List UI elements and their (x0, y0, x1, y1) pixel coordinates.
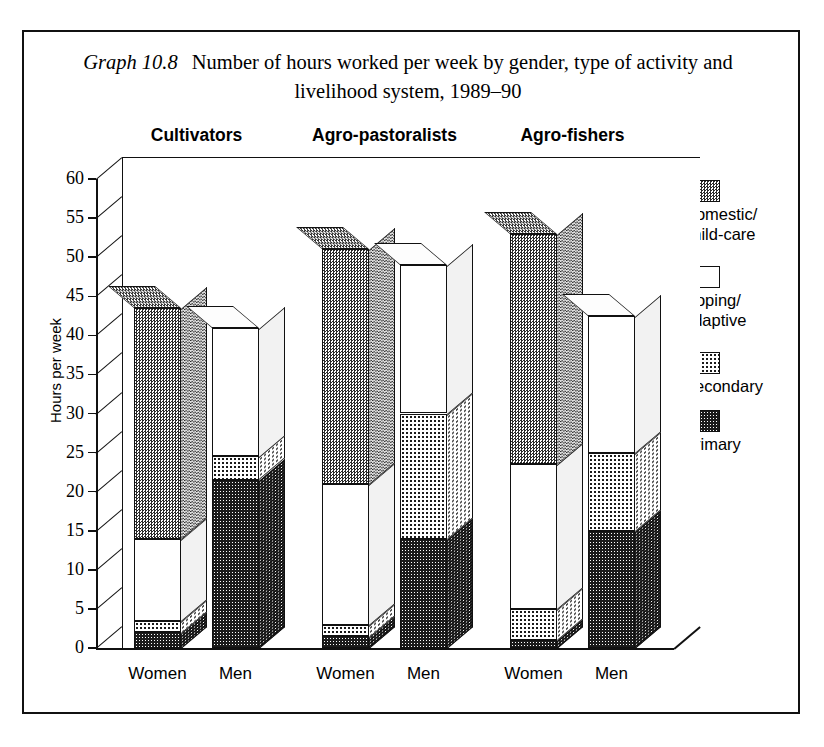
bar-segment-side (369, 463, 395, 626)
depth-gridline (96, 235, 123, 258)
x-axis-label: Women (312, 664, 379, 684)
depth-gridline (96, 353, 123, 376)
bar-segment[interactable] (400, 539, 447, 648)
bar-segment[interactable] (322, 249, 369, 484)
y-tick-label: 40 (50, 329, 84, 340)
bar-segment[interactable] (588, 453, 635, 531)
bar-segment-side (447, 518, 473, 649)
bar-segment-side (181, 287, 207, 540)
legend-label: Coping/ adaptive (684, 290, 792, 330)
y-tick-label: 15 (50, 525, 84, 536)
bar-segment[interactable] (510, 234, 557, 465)
depth-gridline (96, 548, 123, 571)
y-tick-label: 35 (50, 368, 84, 379)
bar-segment-side (557, 443, 583, 610)
bar-segment[interactable] (588, 531, 635, 648)
bar-segment[interactable] (510, 609, 557, 640)
depth-gridline (96, 431, 123, 454)
group-header-2: Agro-fishers (463, 125, 683, 146)
depth-gridline (96, 470, 123, 493)
bar-segment[interactable] (134, 539, 181, 621)
depth-gridline (96, 313, 123, 336)
legend-label: Domestic/ child-care (684, 204, 792, 244)
bar-segment[interactable] (212, 328, 259, 457)
legend-entry-2[interactable]: Secondary (684, 352, 792, 396)
group-header-0: Cultivators (87, 125, 307, 146)
bar-segment-side (447, 392, 473, 539)
depth-gridline (96, 509, 123, 532)
bar-segment[interactable] (510, 464, 557, 609)
bar-segment[interactable] (134, 621, 181, 633)
depth-gridline (96, 626, 123, 649)
figure-title: Number of hours worked per week by gende… (192, 51, 733, 102)
legend-entry-3[interactable]: Primary (684, 410, 792, 454)
y-tick-label: 60 (50, 173, 84, 184)
legend-entry-1[interactable]: Coping/ adaptive (684, 266, 792, 330)
bar-segment[interactable] (510, 640, 557, 648)
y-tick-label: 30 (50, 408, 84, 419)
y-tick-label: 20 (50, 486, 84, 497)
bar-segment-side (259, 307, 285, 458)
legend-label: Secondary (684, 376, 792, 396)
bar-segment[interactable] (322, 636, 369, 648)
y-tick-label: 10 (50, 564, 84, 575)
bar-segment-side (635, 510, 661, 649)
floor-front-edge (96, 648, 674, 650)
bar-segment[interactable] (212, 456, 259, 479)
figure-frame: Graph 10.8Number of hours worked per wee… (22, 30, 800, 714)
y-tick-label: 55 (50, 212, 84, 223)
legend-divider (798, 182, 800, 612)
y-tick-label: 50 (50, 251, 84, 262)
bar-segment[interactable] (588, 316, 635, 453)
legend-label: Primary (684, 434, 792, 454)
y-tick-label: 25 (50, 447, 84, 458)
bar-segment[interactable] (400, 265, 447, 414)
bar-segment[interactable] (400, 414, 447, 539)
depth-gridline (96, 587, 123, 610)
x-axis-label: Men (202, 664, 269, 684)
x-axis-label: Men (578, 664, 645, 684)
bar-segment[interactable] (134, 308, 181, 539)
depth-gridline (96, 392, 123, 415)
figure-caption: Graph 10.8Number of hours worked per wee… (58, 48, 758, 106)
bar-segment-side (557, 213, 583, 466)
y-tick-label: 45 (50, 290, 84, 301)
figure-number: Graph 10.8 (83, 51, 178, 73)
bar-segment[interactable] (212, 480, 259, 648)
depth-gridline (96, 157, 123, 180)
legend-entry-0[interactable]: Domestic/ child-care (684, 180, 792, 244)
bar-segment-side (259, 459, 285, 649)
y-tick-label: 0 (50, 642, 84, 653)
bar-segment[interactable] (134, 632, 181, 648)
group-header-1: Agro-pastoralists (275, 125, 495, 146)
depth-gridline (96, 196, 123, 219)
x-axis-label: Women (500, 664, 567, 684)
bar-segment-side (369, 228, 395, 485)
bar-segment-side (447, 244, 473, 415)
bar-segment[interactable] (322, 484, 369, 625)
x-axis-label: Women (124, 664, 191, 684)
bar-segment-side (635, 295, 661, 454)
y-tick-label: 5 (50, 603, 84, 614)
bar-segment[interactable] (322, 625, 369, 637)
x-axis-label: Men (390, 664, 457, 684)
